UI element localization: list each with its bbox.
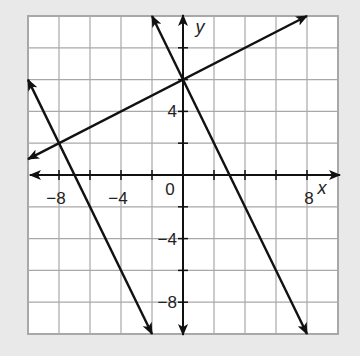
y-tick-label: 4	[168, 102, 177, 121]
x-tick-label: 8	[304, 189, 313, 208]
x-tick-label: −4	[108, 189, 127, 208]
coordinate-plane: −8−484−4−80xy	[0, 0, 360, 356]
origin-label: 0	[165, 180, 174, 199]
y-axis-label: y	[194, 17, 206, 37]
x-axis-label: x	[317, 178, 328, 198]
y-tick-label: −4	[158, 230, 177, 249]
y-tick-label: −8	[158, 293, 177, 312]
x-tick-label: −8	[46, 189, 65, 208]
